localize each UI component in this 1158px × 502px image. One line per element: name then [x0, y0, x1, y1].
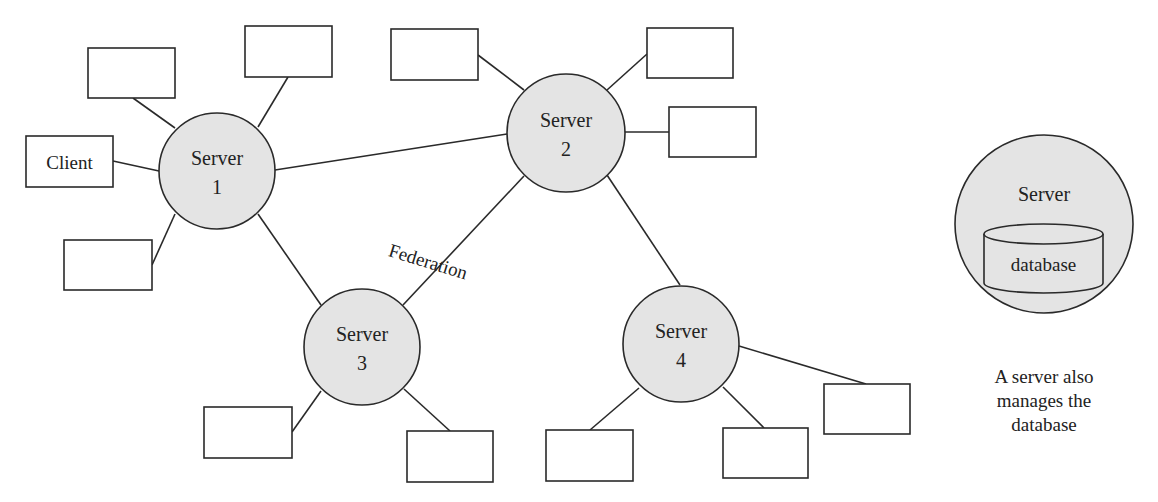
link-s1-s3: [258, 214, 321, 305]
link-s4-box-bottom-middle: [723, 387, 764, 428]
server-circle: [159, 113, 275, 229]
link-s1-box-top-right: [258, 77, 288, 127]
caption-line: manages the: [997, 390, 1091, 411]
link-s4-box-bottom-left: [590, 388, 639, 430]
server-circle: [623, 286, 739, 402]
server-number: 4: [676, 349, 686, 371]
server-number: 2: [561, 138, 571, 160]
server-node-2: Server 2: [507, 74, 625, 192]
client-box: [407, 431, 493, 482]
server-circle: [304, 289, 420, 405]
client-box: [391, 29, 478, 80]
legend-database-label: database: [1011, 254, 1076, 275]
legend-server-label: Server: [1018, 183, 1071, 205]
link-s3-box-bottom-left: [292, 391, 321, 432]
link-s3-box-bottom-right: [404, 389, 450, 431]
client-box: [546, 430, 633, 481]
client-box: [245, 26, 332, 77]
server-label: Server: [655, 320, 708, 342]
link-s1-s2: [275, 134, 507, 170]
legend-caption: A server also manages the database: [994, 366, 1093, 435]
link-s2-s4: [607, 175, 680, 285]
server-label: Server: [540, 109, 593, 131]
client-box: [824, 384, 910, 434]
legend-server-database: Server database: [955, 135, 1133, 313]
link-s2-box-top-left: [478, 55, 524, 90]
client-box: [647, 28, 733, 78]
server-number: 3: [357, 352, 367, 374]
server-number: 1: [212, 176, 222, 198]
client-box: [204, 407, 292, 458]
link-s4-box-right: [739, 346, 866, 384]
server-node-3: Server 3: [304, 289, 420, 405]
link-s1-client: [113, 161, 159, 171]
server-circle: [507, 74, 625, 192]
caption-line: database: [1011, 414, 1076, 435]
client-box: [669, 107, 756, 157]
server-label: Server: [336, 323, 389, 345]
caption-line: A server also: [994, 366, 1093, 387]
link-s1-box-top-left: [133, 98, 175, 128]
server-node-1: Server 1: [159, 113, 275, 229]
link-s1-box-bottom-left: [152, 214, 175, 265]
server-label: Server: [191, 147, 244, 169]
client-label: Client: [46, 152, 93, 173]
client-box: [64, 240, 152, 290]
federated-server-diagram: Client Server 1 Server 2 Server 3 Server…: [0, 0, 1158, 502]
link-s2-box-top-right: [607, 54, 647, 90]
server-node-4: Server 4: [623, 286, 739, 402]
client-box: [723, 428, 808, 478]
client-box: [88, 48, 175, 98]
link-s2-s3: [403, 176, 524, 305]
client-boxes: [26, 26, 910, 482]
